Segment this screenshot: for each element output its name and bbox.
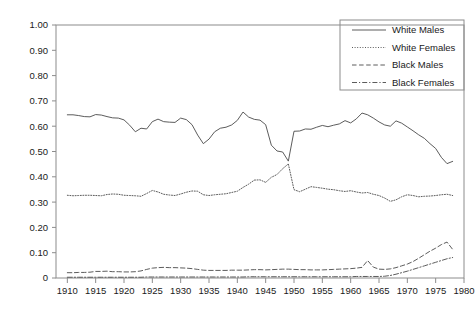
x-axis-tick-label: 1950 <box>283 285 304 296</box>
y-axis: 00.100.200.300.400.500.600.700.800.901.0… <box>30 19 57 283</box>
legend-label-black-males: Black Males <box>392 59 443 70</box>
x-axis-tick-label: 1910 <box>57 285 78 296</box>
y-axis-tick-label: 0.10 <box>30 247 49 258</box>
series-line-black-males <box>67 242 452 273</box>
legend-label-white-males: White Males <box>392 24 445 35</box>
x-axis-tick-label: 1935 <box>198 285 219 296</box>
y-axis-tick-label: 0.20 <box>30 222 49 233</box>
y-axis-tick-label: 0 <box>43 272 48 283</box>
y-axis-tick-label: 0.40 <box>30 171 49 182</box>
x-axis: 1910191519201925193019351940194519501955… <box>57 278 475 296</box>
y-axis-tick-label: 0.70 <box>30 95 49 106</box>
y-axis-tick-label: 0.60 <box>30 121 49 132</box>
y-axis-tick-label: 0.30 <box>30 197 49 208</box>
chart-container: 00.100.200.300.400.500.600.700.800.901.0… <box>0 0 475 311</box>
x-axis-tick-label: 1975 <box>425 285 446 296</box>
chart-legend: White MalesWhite FemalesBlack MalesBlack… <box>340 20 464 90</box>
y-axis-tick-label: 0.50 <box>30 146 49 157</box>
y-axis-tick-label: 0.80 <box>30 70 49 81</box>
legend-label-black-females: Black Females <box>392 77 455 88</box>
x-axis-tick-label: 1960 <box>340 285 361 296</box>
y-axis-tick-label: 1.00 <box>30 19 49 30</box>
x-axis-tick-label: 1955 <box>312 285 333 296</box>
x-axis-tick-label: 1920 <box>113 285 134 296</box>
legend-label-white-females: White Females <box>392 42 456 53</box>
series-layer <box>67 112 452 277</box>
y-axis-tick-label: 0.90 <box>30 45 49 56</box>
line-chart: 00.100.200.300.400.500.600.700.800.901.0… <box>0 0 475 311</box>
x-axis-tick-label: 1940 <box>227 285 248 296</box>
x-axis-tick-label: 1930 <box>170 285 191 296</box>
x-axis-tick-label: 1945 <box>255 285 276 296</box>
x-axis-tick-label: 1925 <box>142 285 163 296</box>
series-line-black-females <box>67 258 452 278</box>
x-axis-tick-label: 1965 <box>368 285 389 296</box>
series-line-white-males <box>67 112 452 164</box>
x-axis-tick-label: 1970 <box>397 285 418 296</box>
x-axis-tick-label: 1980 <box>453 285 474 296</box>
series-line-white-females <box>67 164 452 201</box>
x-axis-tick-label: 1915 <box>85 285 106 296</box>
